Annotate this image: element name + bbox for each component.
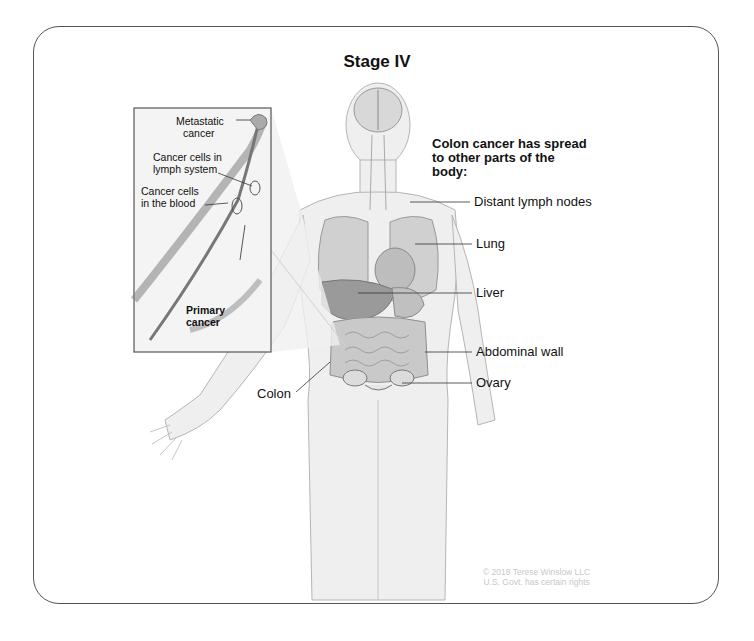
copyright: © 2018 Terese Winslow LLC U.S. Govt. has… <box>483 567 590 587</box>
spread-heading: Colon cancer has spread to other parts o… <box>432 137 587 179</box>
heading-line: body: <box>432 165 587 179</box>
inset-label-metastatic: Metastatic cancer <box>176 115 224 139</box>
body-illustration <box>0 0 754 641</box>
inset-text: lymph system <box>153 163 222 175</box>
inset-label-blood: Cancer cells in the blood <box>141 185 199 209</box>
inset-label-primary: Primary cancer <box>186 304 225 328</box>
label-liver: Liver <box>476 285 504 300</box>
heading-line: to other parts of the <box>432 151 587 165</box>
label-lung: Lung <box>476 236 505 251</box>
inset-text: Cancer cells <box>141 185 199 197</box>
heading-line: Colon cancer has spread <box>432 137 587 151</box>
inset-text: Metastatic <box>176 115 224 127</box>
copyright-line: © 2018 Terese Winslow LLC <box>483 567 590 577</box>
label-distant-lymph-nodes: Distant lymph nodes <box>474 194 592 209</box>
label-ovary: Ovary <box>476 375 511 390</box>
inset-label-lymph: Cancer cells in lymph system <box>153 151 222 175</box>
inset-text: Cancer cells in <box>153 151 222 163</box>
inset-text: Primary <box>186 304 225 316</box>
inset-text: in the blood <box>141 197 199 209</box>
inset-text: cancer <box>176 127 224 139</box>
label-abdominal-wall: Abdominal wall <box>476 344 563 359</box>
label-colon: Colon <box>257 386 291 401</box>
copyright-line: U.S. Govt. has certain rights <box>483 577 590 587</box>
inset-text: cancer <box>186 316 225 328</box>
